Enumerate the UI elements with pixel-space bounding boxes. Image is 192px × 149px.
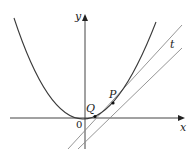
tangent-line (78, 48, 182, 149)
y-axis-label: y (74, 10, 82, 23)
x-axis-label: x (180, 121, 187, 134)
tangent-label: t (170, 38, 175, 51)
point-q (93, 115, 96, 118)
diagram-canvas: y x 0 Q P t (0, 0, 192, 149)
y-axis-arrow-icon (82, 14, 88, 21)
origin-label: 0 (76, 119, 82, 130)
point-p-label: P (108, 88, 117, 101)
point-q-label: Q (86, 102, 95, 115)
point-p (111, 101, 114, 104)
